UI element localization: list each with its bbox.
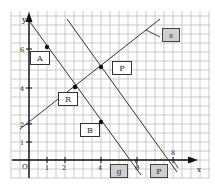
- x-tick-label-1: 1: [45, 164, 49, 172]
- grid-lines: [11, 11, 210, 178]
- x-tick-label-4: 4: [98, 164, 102, 172]
- label-box-a: A: [30, 51, 50, 65]
- label-box-b: B: [80, 123, 100, 137]
- y-axis-arrow-icon: [26, 12, 33, 22]
- label-box-g: g: [110, 164, 128, 178]
- line-3: [20, 19, 160, 129]
- grid-canvas: y x O 1 2 4 6 8 1 2 4 6: [0, 0, 215, 189]
- label-box-s: s: [162, 28, 180, 42]
- x-axis-arrow-icon: [188, 157, 198, 164]
- label-box-p-lower: P: [150, 164, 168, 178]
- label-box-r: R: [58, 92, 78, 106]
- y-axis-label: y: [21, 15, 27, 24]
- y-tick-label-1: 1: [20, 139, 24, 147]
- origin-label: O: [22, 163, 28, 171]
- x-axis-label: x: [197, 166, 201, 174]
- point-a: [45, 45, 49, 49]
- y-tick-label-4: 4: [20, 85, 24, 93]
- x-tick-label-8: 8: [171, 149, 175, 157]
- label-box-p-upper: P: [112, 61, 132, 75]
- leader-lines: [134, 30, 178, 168]
- coordinate-diagram: y x O 1 2 4 6 8 1 2 4 6 A R P: [0, 0, 215, 189]
- x-tick-label-2: 2: [62, 164, 66, 172]
- point-p: [99, 65, 103, 69]
- y-tick-label-6: 6: [20, 46, 24, 54]
- point-r: [73, 85, 77, 89]
